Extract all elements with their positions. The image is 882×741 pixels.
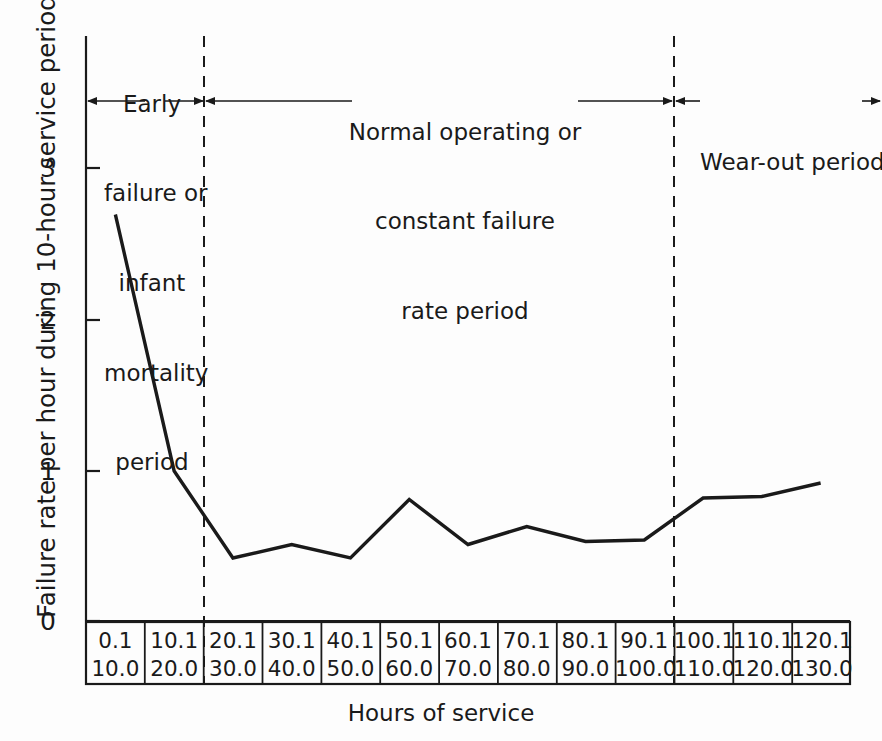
bin-start-label: 70.1: [497, 627, 556, 655]
bin-start-label: 40.1: [321, 627, 380, 655]
phase-label-line: Normal operating or: [280, 118, 650, 148]
x-axis-bin-cell: 0.110.0: [86, 627, 145, 684]
bin-start-label: 30.1: [262, 627, 321, 655]
bin-end-label: 50.0: [321, 655, 380, 683]
phase-label-line: infant: [104, 269, 200, 299]
bin-end-label: 120.0: [732, 655, 791, 683]
bin-end-label: 80.0: [497, 655, 556, 683]
phase-label-line: mortality: [104, 359, 200, 389]
x-axis-bin-cell: 90.1100.0: [615, 627, 674, 684]
phase-label-line: Early: [104, 90, 200, 120]
bin-start-label: 90.1: [615, 627, 674, 655]
bin-end-label: 90.0: [556, 655, 615, 683]
x-axis-bin-cell: 120.1130.0: [791, 627, 850, 684]
bin-start-label: 60.1: [439, 627, 498, 655]
phase-label-line: period: [104, 448, 200, 478]
bin-end-label: 40.0: [262, 655, 321, 683]
bin-start-label: 0.1: [86, 627, 145, 655]
x-axis-bin-cell: 30.140.0: [262, 627, 321, 684]
x-axis-bin-cell: 70.180.0: [497, 627, 556, 684]
x-axis-bin-cell: 80.190.0: [556, 627, 615, 684]
x-axis-title: Hours of service: [0, 700, 882, 727]
x-axis-bin-cell: 60.170.0: [439, 627, 498, 684]
y-axis-title: Failure rate per hour during 10-hour ser…: [33, 0, 62, 618]
x-axis-bin-cell: 110.1120.0: [732, 627, 791, 684]
x-axis-bin-cell: 20.130.0: [204, 627, 263, 684]
phase-label-line: Wear-out period: [700, 148, 862, 178]
x-axis-bin-cell: 100.1110.0: [674, 627, 733, 684]
bin-end-label: 130.0: [791, 655, 850, 683]
phase-label-line: constant failure: [280, 207, 650, 237]
x-axis-bin-cell: 40.150.0: [321, 627, 380, 684]
bin-start-label: 110.1: [732, 627, 791, 655]
bin-start-label: 100.1: [674, 627, 733, 655]
bin-start-label: 20.1: [204, 627, 263, 655]
bin-start-label: 10.1: [145, 627, 204, 655]
phase-label-infant-mortality: Early failure or infant mortality period: [104, 30, 200, 538]
x-axis-bin-cell: 10.120.0: [145, 627, 204, 684]
bin-start-label: 50.1: [380, 627, 439, 655]
x-axis-bin-cell: 50.160.0: [380, 627, 439, 684]
bin-end-label: 70.0: [439, 655, 498, 683]
phase-label-wear-out: Wear-out period: [700, 88, 862, 237]
bin-end-label: 60.0: [380, 655, 439, 683]
failure-rate-bathtub-chart: 3 2 1 0 Failure rate per hour during 10-…: [0, 0, 882, 741]
bin-end-label: 100.0: [615, 655, 674, 683]
phase-label-line: rate period: [280, 297, 650, 327]
bin-end-label: 20.0: [145, 655, 204, 683]
phase-label-constant-failure: Normal operating or constant failure rat…: [280, 58, 650, 387]
phase-label-line: failure or: [104, 179, 200, 209]
bin-start-label: 80.1: [556, 627, 615, 655]
bin-end-label: 110.0: [674, 655, 733, 683]
y-axis: [86, 36, 100, 621]
bin-start-label: 120.1: [791, 627, 850, 655]
bin-end-label: 10.0: [86, 655, 145, 683]
bin-end-label: 30.0: [204, 655, 263, 683]
